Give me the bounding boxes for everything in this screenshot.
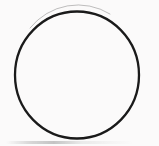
figure-background [0,0,159,146]
circle-figure-svg [0,0,159,146]
figure-canvas [0,0,159,146]
